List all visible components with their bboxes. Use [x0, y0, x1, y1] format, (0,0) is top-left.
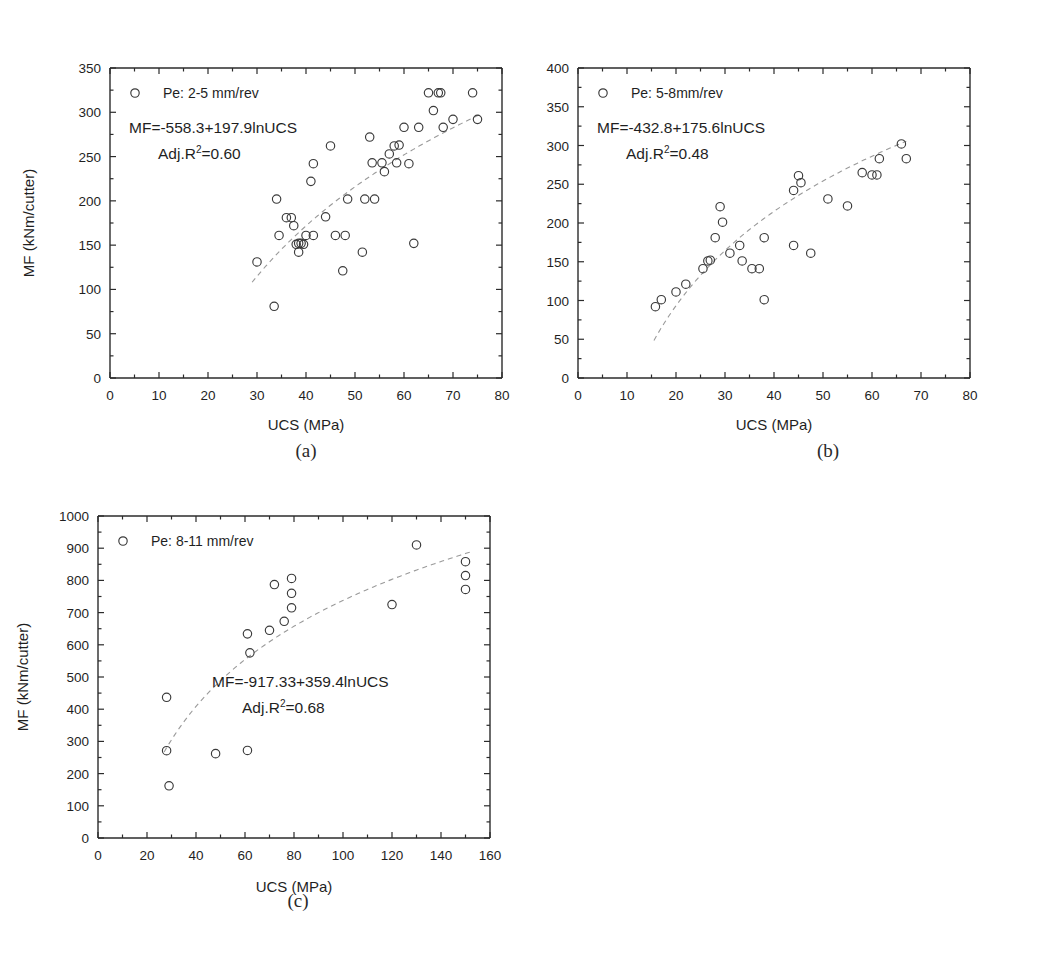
tick-label: 80: [494, 388, 509, 403]
data-point: [461, 571, 469, 579]
tick-label: 80: [286, 848, 301, 863]
data-point: [760, 234, 768, 242]
tick-label: 50: [554, 332, 569, 347]
data-point: [270, 302, 278, 310]
data-point: [711, 234, 719, 242]
tick-label: 0: [81, 831, 89, 846]
tick-label: 600: [66, 638, 89, 653]
tick-label: 200: [78, 194, 101, 209]
tick-label: 700: [66, 606, 89, 621]
panel-b-caption: (b): [788, 440, 868, 462]
tick-label: 30: [249, 388, 264, 403]
panel-a-axes: [110, 68, 502, 378]
tick-label: 500: [66, 670, 89, 685]
panel-c-caption: (c): [258, 890, 338, 912]
data-point: [343, 195, 351, 203]
tick-label: 50: [815, 388, 830, 403]
panel-b-adjr2-prefix: Adj.R: [626, 145, 664, 162]
panel-c-equation-line1: MF=-917.33+359.4lnUCS: [212, 673, 389, 690]
data-point: [361, 195, 369, 203]
panel-c-data-points: [162, 541, 469, 790]
data-point: [385, 150, 393, 158]
data-point: [341, 231, 349, 239]
panel-a-equation: MF=-558.3+197.9lnUCS Adj.R2=0.60: [129, 119, 297, 162]
panel-c-equation: MF=-917.33+359.4lnUCS Adj.R2=0.68: [212, 673, 389, 716]
data-point: [858, 168, 866, 176]
data-point: [657, 296, 665, 304]
data-point: [429, 106, 437, 114]
data-point: [290, 221, 298, 229]
data-point: [339, 267, 347, 275]
data-point: [412, 541, 420, 549]
tick-label: 250: [546, 177, 569, 192]
panel-a-adjr2-value: =0.60: [201, 145, 241, 162]
tick-label: 30: [717, 388, 732, 403]
panel-a-y-ticklabels: 050100150200250300350: [78, 61, 101, 386]
tick-label: 300: [66, 734, 89, 749]
data-point: [424, 89, 432, 97]
data-point: [368, 159, 376, 167]
panel-b-data-points: [651, 140, 910, 311]
panel-a-x-axis-title: UCS (MPa): [268, 416, 345, 433]
tick-label: 100: [332, 848, 355, 863]
panel-c-legend: Pe: 8-11 mm/rev: [119, 533, 254, 549]
data-point: [449, 115, 457, 123]
tick-label: 10: [151, 388, 166, 403]
tick-label: 50: [86, 327, 101, 342]
data-point: [789, 186, 797, 194]
data-point: [243, 630, 251, 638]
data-point: [807, 249, 815, 257]
panel-b: 01020304050607080 0501001502002503003504…: [522, 30, 1042, 450]
data-point: [843, 202, 851, 210]
tick-label: 100: [66, 799, 89, 814]
panel-a-ticks: [110, 68, 502, 378]
data-point: [716, 203, 724, 211]
tick-label: 800: [66, 573, 89, 588]
data-point: [902, 154, 910, 162]
tick-label: 150: [546, 255, 569, 270]
panel-c-adjr2-value: =0.68: [285, 699, 324, 716]
data-point: [789, 241, 797, 249]
data-point: [280, 617, 288, 625]
data-point: [760, 296, 768, 304]
data-point: [211, 749, 219, 757]
data-point: [682, 280, 690, 288]
data-point: [868, 171, 876, 179]
panel-c-y-ticklabels: 01002003004005006007008009001000: [59, 509, 89, 846]
panel-a: 01020304050607080 050100150200250300350 …: [0, 30, 520, 450]
panel-c-regression-curve: [164, 552, 470, 752]
data-point: [672, 288, 680, 296]
data-point: [378, 159, 386, 167]
data-point: [380, 167, 388, 175]
data-point: [738, 257, 746, 265]
panel-b-equation-line2: Adj.R2=0.48: [626, 144, 709, 162]
tick-label: 80: [962, 388, 977, 403]
data-point: [400, 123, 408, 131]
tick-label: 100: [546, 294, 569, 309]
tick-label: 400: [546, 61, 569, 76]
data-point: [165, 782, 173, 790]
panel-a-equation-line1: MF=-558.3+197.9lnUCS: [129, 119, 297, 136]
panel-a-x-ticklabels: 01020304050607080: [106, 388, 509, 403]
data-point: [461, 585, 469, 593]
panel-a-equation-line2: Adj.R2=0.60: [158, 144, 241, 162]
data-point: [294, 248, 302, 256]
panel-b-axes: [578, 68, 970, 378]
data-point: [873, 171, 881, 179]
panel-c-x-ticklabels: 020406080100120140160: [94, 848, 501, 863]
tick-label: 60: [237, 848, 252, 863]
panel-a-adjr2-prefix: Adj.R: [158, 145, 196, 162]
tick-label: 70: [913, 388, 928, 403]
data-point: [275, 231, 283, 239]
tick-label: 0: [106, 388, 114, 403]
data-point: [875, 154, 883, 162]
panel-b-x-axis-title: UCS (MPa): [736, 416, 813, 433]
data-point: [405, 159, 413, 167]
data-point: [358, 248, 366, 256]
panel-b-ticks: [578, 68, 970, 378]
panel-a-regression-curve: [252, 113, 482, 282]
figure-container: 01020304050607080 050100150200250300350 …: [0, 0, 1042, 955]
panel-b-equation-line1: MF=-432.8+175.6lnUCS: [597, 119, 765, 136]
data-point: [331, 231, 339, 239]
tick-label: 200: [546, 216, 569, 231]
